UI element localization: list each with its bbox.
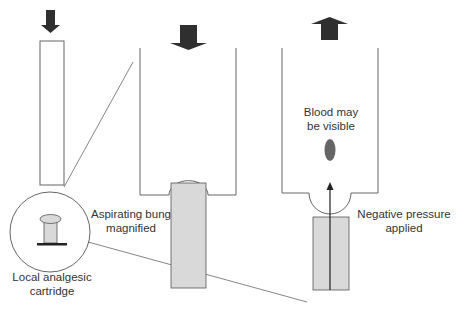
blood-caption-line2: be visible: [296, 119, 366, 133]
syringe-barrel: [40, 41, 64, 185]
left-syringe: [10, 10, 90, 272]
pressure-caption: Negative pressure applied: [356, 207, 452, 235]
pressure-arrow-head-icon: [327, 182, 334, 190]
middle-panel: [140, 25, 236, 288]
middle-caption: Aspirating bung magnified: [89, 207, 173, 235]
blood-caption: Blood may be visible: [296, 105, 366, 133]
down-arrow-icon: [41, 10, 60, 33]
pressure-caption-line1: Negative pressure: [356, 207, 452, 221]
cartridge-base-bar: [37, 243, 67, 246]
blood-caption-line1: Blood may: [296, 105, 366, 119]
left-caption: Local analgesic cartridge: [6, 270, 98, 298]
left-caption-line1: Local analgesic: [6, 270, 98, 284]
right-panel: [282, 17, 378, 290]
aspirating-bung: [171, 183, 206, 288]
middle-caption-line1: Aspirating bung: [89, 207, 173, 221]
left-caption-line2: cartridge: [6, 284, 98, 298]
blood-drop: [325, 139, 336, 161]
connector-line-top: [64, 62, 133, 187]
middle-caption-line2: magnified: [89, 221, 173, 235]
bung-ellipse: [40, 215, 61, 224]
barrel-outline: [140, 48, 236, 195]
aspiration-diagram: [0, 0, 458, 313]
bung-body: [313, 217, 349, 290]
pressure-caption-line2: applied: [356, 221, 452, 235]
up-arrow-icon: [311, 17, 348, 40]
down-arrow-icon: [170, 25, 207, 50]
